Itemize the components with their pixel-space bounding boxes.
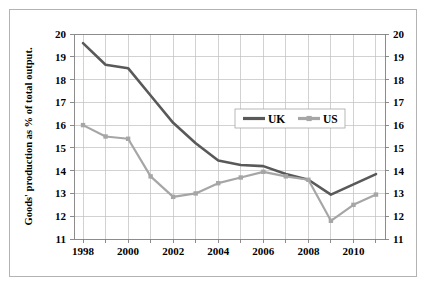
y-axis-tick-label-left: 17 (55, 96, 67, 108)
y-axis-tick-label-left: 19 (55, 51, 67, 63)
plot-frame-layer (74, 34, 385, 239)
plot-area-border (74, 34, 385, 239)
series-marker-us (103, 134, 107, 138)
y-axis-tick-label-right: 17 (393, 96, 405, 108)
x-axis-tick-label: 2008 (297, 245, 320, 257)
chart-figure: 1998200020022004200620082010 11121314151… (9, 9, 417, 277)
y-axis-tick-label-left: 14 (55, 165, 67, 177)
series-marker-us (126, 137, 130, 141)
legend-label-uk: UK (268, 113, 285, 125)
series-marker-us (81, 123, 85, 127)
y-axis-tick-label-left: 12 (55, 210, 67, 222)
y-axis-labels-left: 11121314151617181920 (55, 28, 67, 245)
grid-layer (74, 34, 385, 239)
y-axis-tick-label-right: 12 (393, 210, 405, 222)
y-axis-tick-label-right: 14 (393, 165, 405, 177)
y-axis-tick-label-left: 18 (55, 74, 67, 86)
y-axis-tick-label-left: 20 (55, 28, 67, 40)
line-chart: 1998200020022004200620082010 11121314151… (10, 10, 416, 276)
series-marker-us (216, 181, 220, 185)
series-marker-us (194, 191, 198, 195)
y-axis-title: Goods' production as % of total output. (23, 47, 34, 225)
series-marker-us (239, 175, 243, 179)
x-axis-tick-label: 1998 (72, 245, 95, 257)
legend-marker-us (307, 116, 312, 121)
x-axis-tick-label: 2002 (162, 245, 185, 257)
y-axis-labels-right: 11121314151617181920 (393, 28, 405, 245)
x-axis-labels: 1998200020022004200620082010 (72, 245, 365, 257)
y-axis-tick-label-left: 16 (55, 119, 67, 131)
y-axis-tick-label-left: 11 (56, 233, 66, 245)
series-marker-us (329, 219, 333, 223)
series-marker-us (351, 203, 355, 207)
y-axis-tick-label-right: 16 (393, 119, 405, 131)
series-marker-us (306, 178, 310, 182)
y-axis-tick-label-right: 18 (393, 74, 405, 86)
x-axis-tick-label: 2000 (117, 245, 140, 257)
x-axis-tick-label: 2004 (207, 245, 230, 257)
y-axis-tick-label-right: 11 (393, 233, 403, 245)
data-series-layer (81, 43, 378, 223)
legend-label-us: US (323, 113, 338, 125)
series-marker-us (148, 174, 152, 178)
series-marker-us (261, 170, 265, 174)
x-axis-tick-label: 2010 (342, 245, 365, 257)
series-marker-us (284, 174, 288, 178)
y-axis-tick-label-right: 19 (393, 51, 405, 63)
series-marker-us (374, 192, 378, 196)
series-marker-us (171, 195, 175, 199)
y-axis-tick-label-left: 15 (55, 142, 67, 154)
y-axis-tick-label-right: 15 (393, 142, 405, 154)
x-axis-tick-label: 2006 (252, 245, 275, 257)
y-axis-tick-label-right: 13 (393, 187, 405, 199)
y-axis-tick-label-right: 20 (393, 28, 405, 40)
chart-legend: UKUS (235, 109, 345, 128)
y-axis-title-text: Goods' production as % of total output. (23, 47, 34, 225)
y-axis-tick-label-left: 13 (55, 187, 67, 199)
